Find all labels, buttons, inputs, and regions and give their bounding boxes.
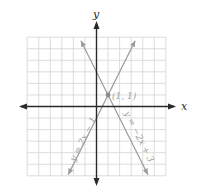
intersection-point-label: (1, 1) xyxy=(112,91,137,101)
coordinate-plane: x y (1, 1) y = 2x − 1 y = −2x + 3 xyxy=(0,0,198,193)
line-y-equals-neg-2x-plus-3 xyxy=(81,41,148,175)
y-axis-down-arrow-icon xyxy=(94,178,100,186)
y-axis-up-arrow-icon xyxy=(94,21,100,29)
intersection-point xyxy=(106,93,111,98)
line-y-equals-2x-minus-1-label: y = 2x − 1 xyxy=(67,115,98,163)
x-axis-left-arrow-icon xyxy=(19,104,27,110)
axes xyxy=(19,21,176,186)
x-axis-label: x xyxy=(181,100,188,113)
x-axis-right-arrow-icon xyxy=(168,104,176,110)
y-axis-label: y xyxy=(92,8,100,21)
